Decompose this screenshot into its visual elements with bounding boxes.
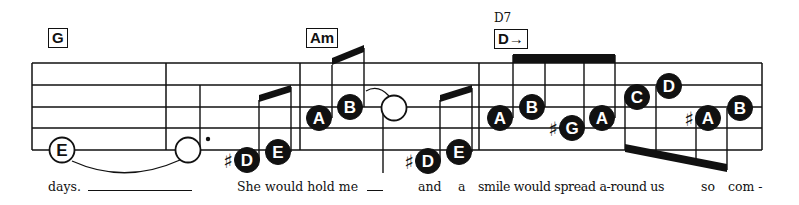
svg-text:E: E: [272, 143, 283, 162]
lyric-days: days.: [48, 179, 81, 194]
note-b: B: [520, 95, 545, 120]
note-e: E: [266, 140, 291, 165]
augmentation-dot: [206, 137, 210, 141]
lyric-extender: [88, 190, 192, 191]
svg-text:A: A: [313, 109, 325, 128]
note-b: B: [338, 95, 363, 120]
chord-symbol-d: D→: [494, 29, 528, 49]
note-d-sharp: D♯: [223, 148, 259, 174]
svg-text:A: A: [702, 109, 714, 128]
note-d: D: [657, 74, 682, 99]
chord-symbol-am: Am: [306, 28, 338, 48]
svg-text:B: B: [734, 99, 746, 118]
sharp-icon: ♯: [684, 107, 694, 131]
svg-text:C: C: [631, 88, 643, 107]
music-staff: ED♯EABD♯EABG♯ACDA♯B: [0, 0, 799, 205]
svg-text:A: A: [494, 109, 506, 128]
svg-text:B: B: [344, 98, 356, 117]
lyric-smile-would-spread-around-us: smile would spread a-round us: [478, 179, 664, 194]
note-c: C: [625, 85, 650, 110]
note-a-sharp: A♯: [684, 106, 720, 132]
svg-text:G: G: [565, 119, 578, 138]
sharp-icon: ♯: [548, 117, 558, 141]
note-e: E: [50, 138, 75, 163]
lyric-a: a: [458, 179, 465, 194]
lyric-extender: [367, 190, 383, 191]
sharp-icon: ♯: [223, 149, 233, 173]
chord-name-d7: D7: [494, 11, 511, 25]
lyric-she-would-hold-me: She would hold me: [237, 179, 358, 194]
svg-text:D: D: [241, 151, 253, 170]
svg-text:A: A: [596, 109, 608, 128]
note-d-sharp: D♯: [404, 149, 440, 175]
note-half: [176, 138, 201, 163]
note-a: A: [307, 106, 332, 131]
note-e: E: [447, 140, 472, 165]
svg-text:E: E: [453, 143, 464, 162]
chord-symbol-g: G: [48, 28, 68, 48]
lyric-com: com -: [728, 179, 763, 194]
note-a: A: [590, 106, 615, 131]
note-a: A: [488, 106, 513, 131]
note-half: [382, 96, 407, 121]
note-b: B: [728, 96, 753, 121]
lyric-and: and: [418, 179, 442, 194]
lyric-so: so: [701, 179, 715, 194]
svg-text:B: B: [526, 98, 538, 117]
note-g-sharp: G♯: [548, 116, 584, 142]
svg-text:D: D: [422, 152, 434, 171]
svg-text:E: E: [56, 141, 67, 160]
sharp-icon: ♯: [404, 150, 414, 174]
svg-text:D: D: [663, 77, 675, 96]
